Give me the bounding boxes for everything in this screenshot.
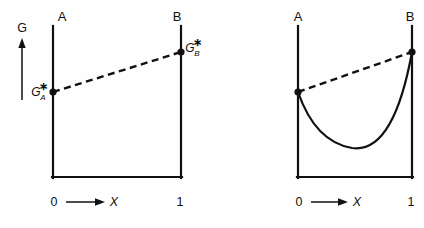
left-panel-point-a-label: G ∗ A <box>31 80 47 102</box>
left-panel-tie-line <box>53 52 181 92</box>
point-b-label-subscript: B <box>194 49 200 58</box>
right-panel-corner-label-b: B <box>406 9 415 24</box>
left-panel-corner-label-a: A <box>58 9 67 24</box>
left-panel: A B G G ∗ A G ∗ B 0 <box>17 9 201 209</box>
g-axis-arrow-head <box>18 38 25 48</box>
free-energy-diagram-figure: A B G G ∗ A G ∗ B 0 <box>0 0 424 228</box>
left-panel-point-b-label: G ∗ B <box>185 36 201 58</box>
g-axis-arrow <box>18 38 25 100</box>
left-panel-x-axis-arrow <box>66 198 105 205</box>
right-panel-tie-line <box>298 52 412 92</box>
left-panel-x-tick-max: 1 <box>177 195 184 209</box>
right-panel: A B 0 X 1 <box>294 9 416 209</box>
left-panel-x-tick-min: 0 <box>51 195 58 209</box>
right-panel-x-axis-label: X <box>352 195 362 209</box>
figure-canvas: A B G G ∗ A G ∗ B 0 <box>0 0 424 228</box>
left-panel-point-b-marker <box>177 48 184 55</box>
right-panel-free-energy-curve <box>298 52 412 148</box>
right-panel-point-a-marker <box>294 88 301 95</box>
right-panel-x-tick-min: 0 <box>296 195 303 209</box>
left-panel-x-axis-label: X <box>109 195 119 209</box>
left-x-arrow-head <box>95 198 105 205</box>
point-b-label-star: ∗ <box>193 36 202 48</box>
left-panel-y-axis-label: G <box>17 21 27 35</box>
point-a-label-subscript: A <box>39 93 45 102</box>
right-x-arrow-head <box>338 198 348 205</box>
point-a-label-star: ∗ <box>39 80 48 92</box>
left-panel-corner-label-b: B <box>173 9 182 24</box>
right-panel-point-b-marker <box>408 48 415 55</box>
right-panel-x-axis-arrow <box>311 198 348 205</box>
left-panel-point-a-marker <box>49 88 56 95</box>
right-panel-x-tick-max: 1 <box>408 195 415 209</box>
right-panel-corner-label-a: A <box>294 9 303 24</box>
